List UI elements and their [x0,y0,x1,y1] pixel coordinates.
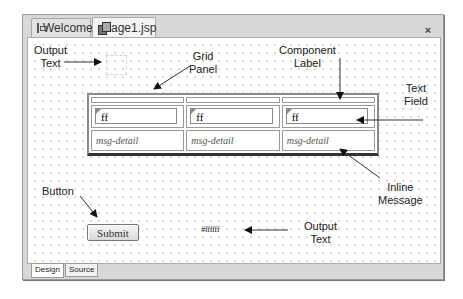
annotation-arrows [0,0,463,299]
